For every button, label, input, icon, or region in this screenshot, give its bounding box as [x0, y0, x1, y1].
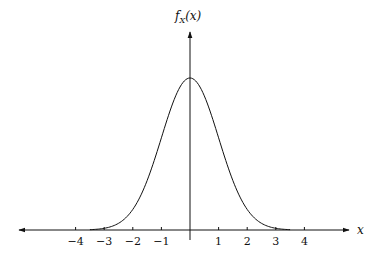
x-tick-label: 1	[215, 235, 222, 248]
x-tick-label: −4	[67, 235, 83, 248]
x-axis-label: x	[357, 223, 364, 237]
x-tick-label: −1	[153, 235, 169, 248]
x-tick-label: 2	[244, 235, 251, 248]
y-axis-label: fX(x)	[174, 9, 202, 25]
x-tick-labels: −4−3−2−11234	[67, 235, 307, 248]
x-tick-label: −3	[96, 235, 112, 248]
x-tick-label: 4	[301, 235, 308, 248]
x-tick-label: −2	[125, 235, 141, 248]
x-tick-label: 3	[272, 235, 279, 248]
density-chart: −4−3−2−11234 x fX(x)	[0, 0, 381, 257]
